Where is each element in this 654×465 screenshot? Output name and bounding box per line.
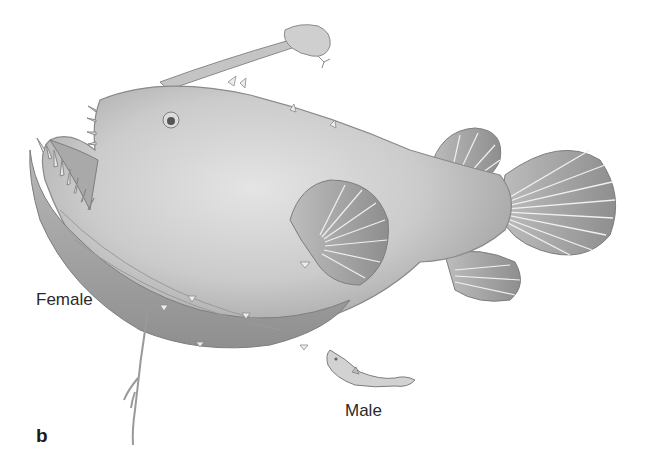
female-label: Female [36, 290, 93, 310]
anal-fin [445, 251, 520, 301]
male-label: Male [345, 401, 382, 421]
caudal-fin [500, 150, 616, 255]
esca-lure [284, 25, 330, 57]
anglerfish-illustration [0, 0, 654, 465]
male-anglerfish [327, 350, 415, 387]
eye [163, 112, 179, 128]
panel-letter: b [36, 425, 48, 447]
barbel [124, 310, 148, 445]
